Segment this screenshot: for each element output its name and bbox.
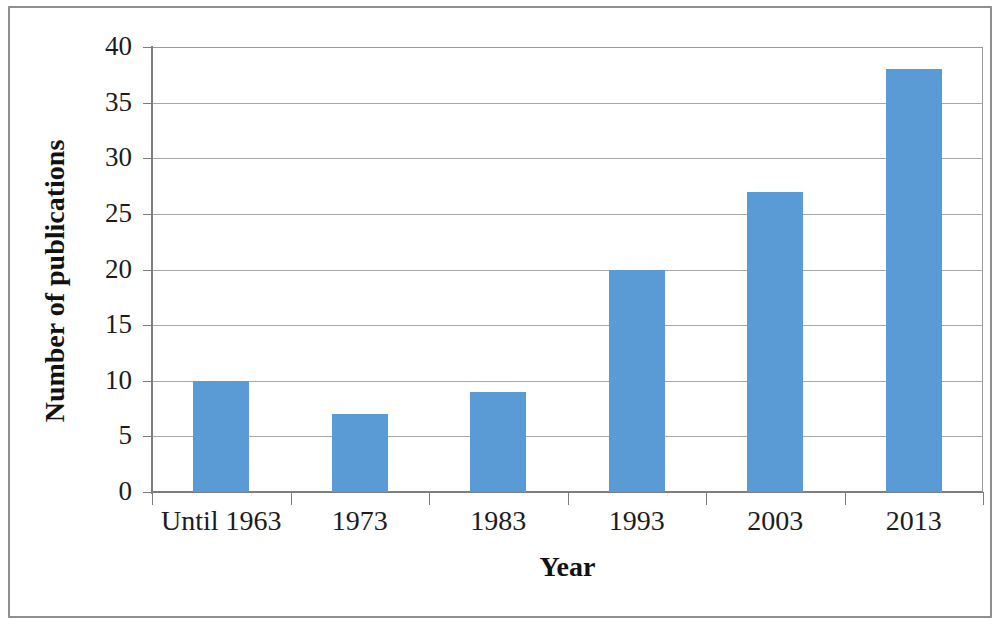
y-tick-mark-5	[143, 436, 153, 437]
gridline-20	[152, 270, 983, 271]
y-tick-label: 20	[72, 256, 132, 283]
x-tick-label: Until 1963	[152, 505, 291, 537]
x-separator-tick	[152, 492, 153, 505]
y-tick-mark-20	[143, 270, 153, 271]
y-tick-label: 35	[72, 89, 132, 116]
y-tick-label: 15	[72, 311, 132, 338]
plot-area	[152, 47, 983, 492]
y-tick-mark-25	[143, 214, 153, 215]
y-tick-mark-30	[143, 158, 153, 159]
x-separator-tick	[568, 492, 569, 505]
bar-2003	[747, 192, 803, 492]
bar-1993	[609, 270, 665, 493]
y-tick-label: 10	[72, 367, 132, 394]
x-separator-tick	[706, 492, 707, 505]
y-tick-mark-10	[143, 381, 153, 382]
x-tick-label: 1993	[568, 505, 707, 537]
y-tick-label: 25	[72, 200, 132, 227]
gridline-5	[152, 436, 983, 437]
chart-page: Number of publications 0510152025303540 …	[0, 0, 1004, 630]
y-tick-label: 5	[72, 422, 132, 449]
gridline-30	[152, 158, 983, 159]
bar-1973	[332, 414, 388, 492]
y-tick-label: 0	[72, 478, 132, 505]
x-axis-title: Year	[152, 551, 983, 583]
gridline-15	[152, 325, 983, 326]
x-tick-label: 2013	[845, 505, 984, 537]
bar-2013	[886, 69, 942, 492]
bar-until-1963	[193, 381, 249, 492]
gridline-25	[152, 214, 983, 215]
x-tick-label: 2003	[706, 505, 845, 537]
x-separator-tick	[983, 492, 984, 505]
x-separator-tick	[429, 492, 430, 505]
bar-1983	[470, 392, 526, 492]
gridline-40	[152, 47, 983, 48]
x-separator-tick	[291, 492, 292, 505]
x-tick-label: 1983	[429, 505, 568, 537]
y-tick-mark-35	[143, 103, 153, 104]
y-axis-title: Number of publications	[39, 81, 71, 481]
y-tick-mark-40	[143, 47, 153, 48]
y-tick-label: 40	[72, 33, 132, 60]
y-tick-label: 30	[72, 144, 132, 171]
gridline-10	[152, 381, 983, 382]
y-tick-mark-15	[143, 325, 153, 326]
gridline-35	[152, 103, 983, 104]
x-tick-label: 1973	[291, 505, 430, 537]
x-separator-tick	[845, 492, 846, 505]
